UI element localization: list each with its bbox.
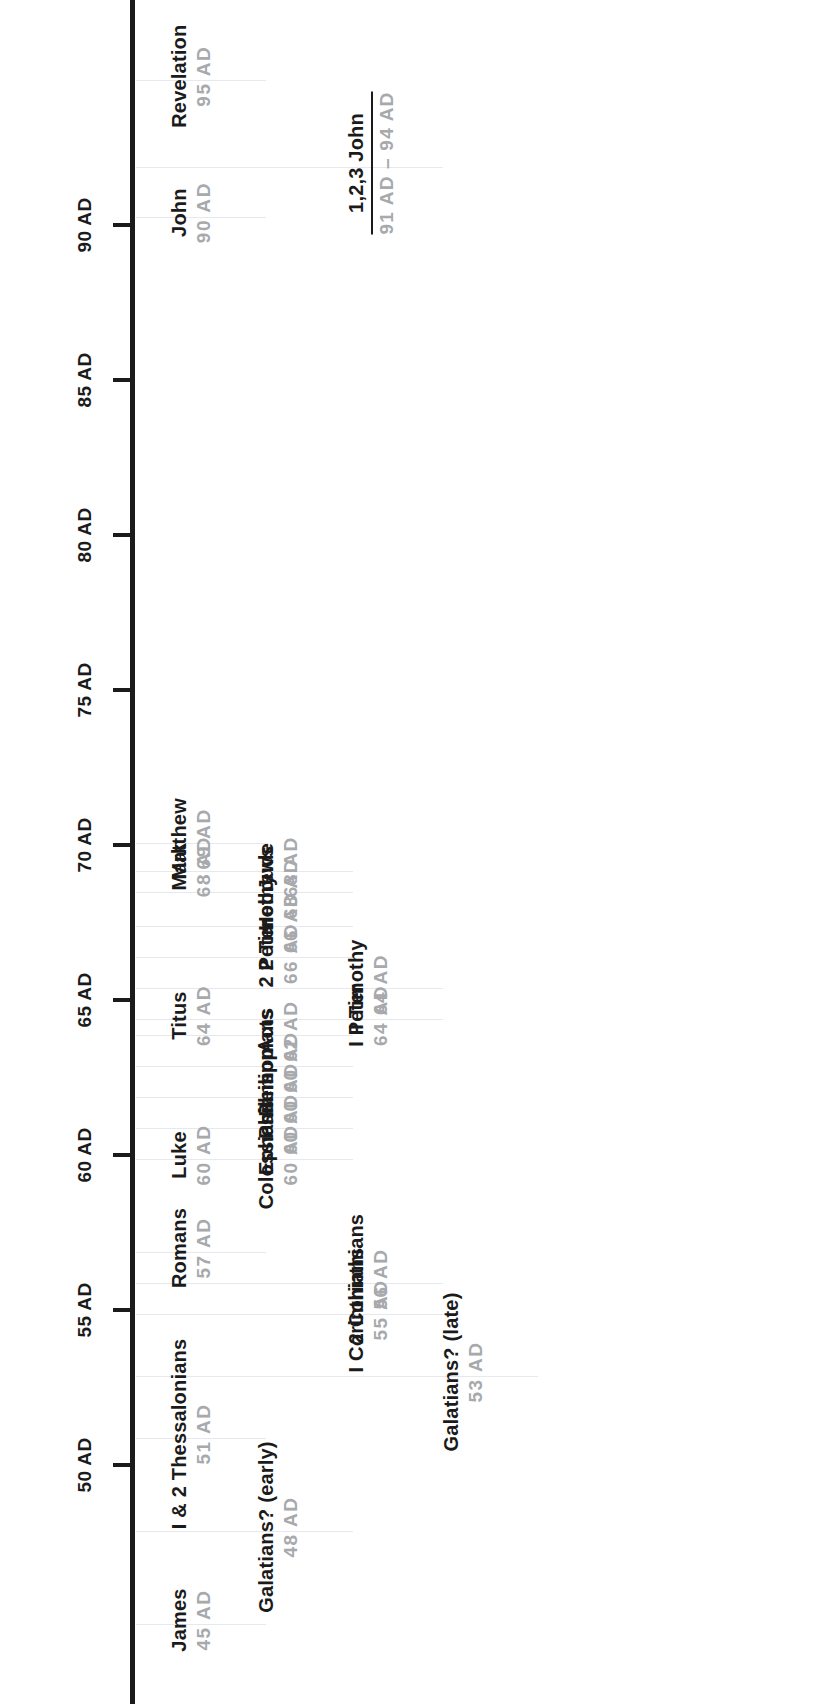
timeline-entry: Galatians? (early)48 AD <box>255 1441 302 1612</box>
axis-tick-label: 75 AD <box>74 662 96 717</box>
axis-tick-label: 70 AD <box>74 817 96 872</box>
axis-tick-label: 65 AD <box>74 972 96 1027</box>
book-date: 53 AD <box>465 1293 487 1452</box>
timeline-chart: 50 AD55 AD60 AD65 AD70 AD75 AD80 AD85 AD… <box>0 0 833 1704</box>
timeline-entry: Matthew69 AD <box>168 798 215 879</box>
book-date: 56 AD <box>370 1214 392 1344</box>
leader-line <box>136 1531 353 1532</box>
leader-line <box>136 927 353 928</box>
book-date: 60 AD <box>193 1124 215 1185</box>
axis-tick-label: 80 AD <box>74 507 96 562</box>
axis-tick-label: 60 AD <box>74 1127 96 1182</box>
book-date: 48 AD <box>280 1441 302 1612</box>
timeline-entry: I Timothy64 AD <box>345 939 392 1029</box>
book-name: I & 2 Thessalonians <box>168 1339 190 1530</box>
timeline-entry: Acts62 AD <box>255 1000 302 1061</box>
book-name: 2 Corinthians <box>345 1214 367 1344</box>
timeline-entry: 1,2,3 John91 AD – 94 AD <box>345 91 398 234</box>
book-name: Galatians? (early) <box>255 1441 277 1612</box>
leader-line <box>136 1066 353 1067</box>
axis-tick-label: 85 AD <box>74 352 96 407</box>
book-name: Revelation <box>168 25 190 128</box>
axis-tick <box>113 843 130 847</box>
book-date: 95 AD <box>193 25 215 128</box>
book-name: Jude <box>255 836 277 897</box>
book-date: 45 AD <box>193 1588 215 1651</box>
timeline-entry: 2 Corinthians56 AD <box>345 1214 392 1344</box>
timeline-entry: Jude68 AD <box>255 836 302 897</box>
book-name: 1,2,3 John <box>345 91 369 234</box>
axis-tick <box>113 688 130 692</box>
book-date: 69 AD <box>193 798 215 879</box>
timeline-entry: I & 2 Thessalonians51 AD <box>168 1339 215 1530</box>
timeline-entry: Titus64 AD <box>168 985 215 1046</box>
axis-tick-label: 50 AD <box>74 1437 96 1492</box>
book-name: John <box>168 182 190 243</box>
book-date: 91 AD – 94 AD <box>371 91 398 234</box>
axis-tick-label: 55 AD <box>74 1282 96 1337</box>
book-name: Romans <box>168 1208 190 1288</box>
timeline-entry: Galatians? (late)53 AD <box>440 1293 487 1452</box>
book-name: Luke <box>168 1124 190 1185</box>
book-name: James <box>168 1588 190 1651</box>
axis-tick <box>113 1153 130 1157</box>
axis-tick <box>113 998 130 1002</box>
timeline-entry: Revelation95 AD <box>168 25 215 128</box>
axis-tick <box>113 1308 130 1312</box>
axis-tick-label: 90 AD <box>74 197 96 252</box>
timeline-entry: John90 AD <box>168 182 215 243</box>
leader-line <box>136 958 353 959</box>
timeline-entry: James45 AD <box>168 1588 215 1651</box>
axis-tick <box>113 223 130 227</box>
leader-line <box>136 1097 353 1098</box>
book-name: Titus <box>168 985 190 1046</box>
book-date: 62 AD <box>280 1000 302 1061</box>
book-name: Galatians? (late) <box>440 1293 462 1452</box>
axis-tick <box>113 533 130 537</box>
book-date: 68 AD <box>280 836 302 897</box>
book-date: 64 AD <box>193 985 215 1046</box>
timeline-axis-line <box>130 0 135 1704</box>
book-date: 51 AD <box>193 1339 215 1530</box>
book-name: Acts <box>255 1000 277 1061</box>
book-date: 64 AD <box>370 939 392 1029</box>
timeline-entry: Luke60 AD <box>168 1124 215 1185</box>
book-name: I Timothy <box>345 939 367 1029</box>
timeline-entry: Romans57 AD <box>168 1208 215 1288</box>
leader-line <box>136 1314 443 1315</box>
axis-tick <box>113 1463 130 1467</box>
book-date: 90 AD <box>193 182 215 243</box>
axis-tick <box>113 378 130 382</box>
book-date: 57 AD <box>193 1208 215 1288</box>
book-name: Matthew <box>168 798 190 879</box>
